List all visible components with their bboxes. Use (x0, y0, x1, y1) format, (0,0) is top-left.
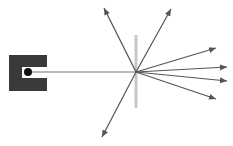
diffraction-diagram (0, 0, 233, 146)
ray-up-left-arrow-icon (104, 8, 136, 72)
source-dot-icon (24, 68, 32, 76)
ray-down-left-arrow-icon (102, 72, 136, 137)
